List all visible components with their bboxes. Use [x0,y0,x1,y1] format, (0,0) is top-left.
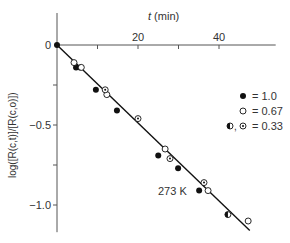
y-tick-label: −0.5 [29,119,51,131]
y-tick-label: 0 [45,39,51,51]
legend-label: = 1.0 [252,90,277,102]
open-circle-marker [205,188,211,194]
filled-circle-marker [196,188,202,194]
temperature-annotation: 273 K [158,185,187,197]
open-circle-marker [71,60,77,66]
open-circle-marker [162,146,168,152]
kinetics-scatter-chart: 20400−0.5−1.0 t (min) log([R(c,t)]/[R(c,… [0,0,290,243]
x-axis-label: t (min) [148,10,179,22]
svg-text:,: , [234,121,237,132]
filled-circle-marker [240,93,246,99]
y-axis-label: log([R(c,t)]/[R(c,o)]) [7,92,18,178]
fit-line [57,45,250,231]
regression-line [57,45,250,231]
x-tick-label: 20 [132,31,144,43]
filled-circle-marker [175,165,181,171]
open-circle-marker [240,108,246,114]
legend-label: = 0.67 [252,105,283,117]
y-tick-label: −1.0 [29,199,51,211]
open-circle-marker [245,218,251,224]
x-tick-label: 40 [213,31,225,43]
axes: 20400−0.5−1.0 [29,13,275,232]
open-circle-marker [78,64,84,70]
filled-circle-marker [155,152,161,158]
filled-circle-marker [114,108,120,114]
filled-circle-marker [93,87,99,93]
filled-circle-marker [54,42,60,48]
data-points [54,42,251,224]
legend-label: = 0.33 [252,120,283,132]
legend: ,= 1.0= 0.67= 0.33 [227,90,283,132]
